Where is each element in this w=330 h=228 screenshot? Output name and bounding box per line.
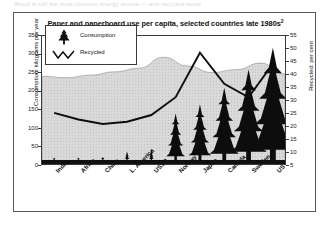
y-tick-right-45: 45: [290, 58, 312, 64]
y-tick-right-55: 55: [290, 32, 312, 38]
y-tick-left-0: 0: [16, 162, 38, 168]
y-tick-right-20: 20: [290, 123, 312, 129]
y-tick-left-50: 50: [16, 143, 38, 149]
fir-tree-icon: [52, 29, 76, 45]
y-tick-right-35: 35: [290, 84, 312, 90]
clipped-caption-text: Wood is still the most common energy sou…: [14, 0, 320, 9]
y-tick-left-250: 250: [16, 69, 38, 75]
y-tick-right-10: 10: [290, 149, 312, 155]
y-tick-right-25: 25: [290, 110, 312, 116]
y-tick-right-15: 15: [290, 136, 312, 142]
y-tick-left-300: 300: [16, 50, 38, 56]
chart-figure: Paper and paperboard use per capita, sel…: [13, 12, 316, 212]
chart-page: Wood is still the most common energy sou…: [0, 0, 330, 228]
y-tick-left-100: 100: [16, 125, 38, 131]
legend-label-consumption: Consumption: [80, 32, 115, 38]
x-axis-labels: IndiaAfricaChinaL. AmericaUSSRNorwayJapa…: [41, 167, 286, 211]
y-axis-left-title: Consumption: kilograms per year: [33, 7, 39, 117]
y-tick-right-50: 50: [290, 45, 312, 51]
y-tick-right-40: 40: [290, 71, 312, 77]
y-tick-right-5: 5: [290, 162, 312, 168]
chart-legend: Consumption Recycled: [45, 25, 137, 65]
chart-title-superscript: 2: [281, 18, 284, 24]
y-tick-left-200: 200: [16, 87, 38, 93]
zigzag-line-icon: [52, 46, 76, 62]
y-tick-left-150: 150: [16, 106, 38, 112]
y-tick-left-350: 350: [16, 32, 38, 38]
legend-item-recycled: Recycled: [50, 46, 136, 62]
legend-item-consumption: Consumption: [50, 29, 136, 45]
legend-label-recycled: Recycled: [80, 49, 105, 55]
y-tick-right-30: 30: [290, 97, 312, 103]
